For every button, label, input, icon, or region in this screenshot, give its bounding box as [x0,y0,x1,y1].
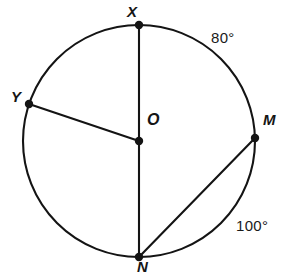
segment-oy [29,104,139,141]
point-x-dot [135,21,143,29]
point-label-y: Y [11,89,21,104]
point-label-n: N [137,259,148,274]
point-y-dot [25,100,33,108]
point-label-m: M [263,112,276,127]
arc-measure-label-mn: 100° [236,218,268,233]
arc-measure-label-xm: 80° [211,30,235,45]
geometry-figure: X M N Y O 80° 100° [0,0,289,280]
point-label-o-center: O [147,112,159,128]
circle-diagram [0,0,289,280]
point-m-dot [251,134,259,142]
point-label-x: X [127,4,137,19]
segment-nm [139,138,255,257]
point-o-center-dot [135,137,143,145]
